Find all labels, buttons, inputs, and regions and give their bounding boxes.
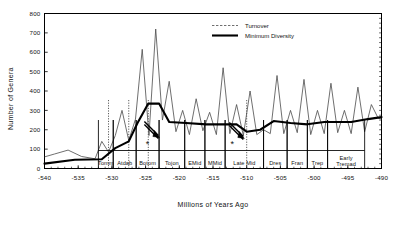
stage-label: Trep	[312, 160, 324, 166]
extinction-asterisk: *	[146, 139, 150, 149]
stage-label: Dres	[269, 160, 281, 166]
y-tick-label: 600	[30, 48, 41, 55]
y-tick-label: 100	[30, 145, 41, 152]
y-axis-title: Number of Genera	[7, 67, 14, 130]
stage-label: Fran	[291, 160, 303, 166]
stage-label: Tojon	[165, 160, 179, 166]
y-tick-label: 300	[30, 107, 41, 114]
stage-label: Botom	[139, 160, 156, 166]
x-tick-label: -520	[173, 174, 187, 181]
cambrian-genera-diversity-chart: Number of Genera Millions of Years Ago 0…	[0, 0, 394, 226]
stage-label: MMid	[208, 160, 222, 166]
x-tick-label: -525	[139, 174, 153, 181]
x-tick-label: -540	[38, 174, 52, 181]
y-tick-label: 500	[30, 68, 41, 75]
y-tick-label: 700	[30, 29, 41, 36]
y-tick-label: 0	[37, 165, 41, 172]
y-tick-label: 400	[30, 87, 41, 94]
x-tick-label: -535	[72, 174, 86, 181]
x-tick-label: -495	[341, 174, 355, 181]
x-tick-label: -515	[206, 174, 220, 181]
legend-label-minimum-diversity: Minimum Diversity	[245, 33, 294, 39]
stage-label: EMid	[188, 160, 201, 166]
x-tick-label: -500	[308, 174, 322, 181]
x-axis-title: Millions of Years Ago	[178, 201, 249, 209]
x-tick-label: -490	[375, 174, 389, 181]
x-tick-label: -530	[105, 174, 119, 181]
stage-label: Tomm	[98, 160, 114, 166]
extinction-asterisk: *	[231, 139, 235, 149]
legend-label-turnover: Turnover	[245, 23, 269, 29]
stage-label: Atdab	[117, 160, 132, 166]
stage-label: Late Mid	[233, 160, 255, 166]
x-tick-label: -505	[274, 174, 288, 181]
y-tick-label: 200	[30, 126, 41, 133]
x-tick-label: -510	[240, 174, 254, 181]
stage-label: Tremad	[336, 161, 356, 167]
y-tick-label: 800	[30, 10, 41, 17]
